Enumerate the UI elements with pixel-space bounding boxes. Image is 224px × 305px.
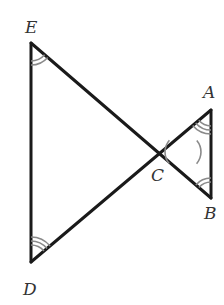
label-D: D	[22, 279, 37, 299]
angle-mark-C-right	[197, 140, 201, 163]
label-B: B	[203, 203, 217, 223]
geometry-diagram: E D A B C	[0, 0, 224, 305]
segment-EB	[31, 43, 211, 198]
label-E: E	[24, 17, 38, 37]
label-A: A	[201, 82, 215, 102]
segment-DA	[31, 110, 211, 262]
label-C: C	[151, 165, 164, 185]
